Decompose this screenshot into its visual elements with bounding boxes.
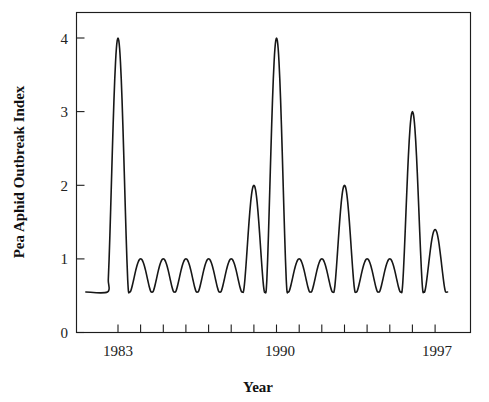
pea-aphid-outbreak-chart: 0 1 2 3 4 1983 1990 1997 Pea Aphid Outbr…	[0, 0, 489, 402]
y-axis-title: Pea Aphid Outbreak Index	[11, 85, 27, 258]
chart-figure: 0 1 2 3 4 1983 1990 1997 Pea Aphid Outbr…	[0, 0, 489, 402]
x-axis-tick-labels: 1983 1990 1997	[103, 343, 453, 359]
x-axis-tickmarks	[118, 325, 435, 333]
x-tick-label-1997: 1997	[422, 343, 453, 359]
y-tick-label-4: 4	[61, 31, 69, 47]
y-tick-label-0: 0	[61, 325, 69, 341]
y-tick-label-2: 2	[61, 178, 69, 194]
x-axis-title: Year	[243, 379, 273, 395]
x-tick-label-1983: 1983	[103, 343, 133, 359]
y-tick-label-1: 1	[61, 251, 69, 267]
y-axis-tickmarks	[77, 38, 85, 333]
x-tick-label-1990: 1990	[265, 343, 295, 359]
y-tick-label-3: 3	[61, 104, 69, 120]
aphid-index-line	[86, 38, 448, 293]
y-axis-tick-labels: 0 1 2 3 4	[61, 31, 69, 342]
